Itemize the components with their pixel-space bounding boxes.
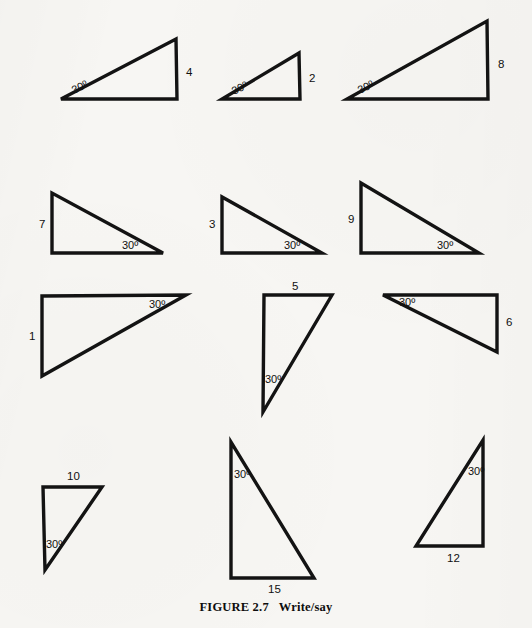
triangle-9-side-label: 9 — [348, 213, 354, 225]
triangle-10-angle-label: 30º — [46, 538, 62, 550]
triangle-group-1: 1 30º — [29, 295, 186, 376]
triangle-15-shape — [231, 442, 314, 578]
triangle-group-10: 10 30º — [43, 470, 102, 570]
triangle-3-side-label: 3 — [209, 218, 215, 230]
triangle-5-angle-label: 30º — [265, 373, 281, 385]
figure-caption: FIGURE 2.7Write/say — [0, 600, 532, 615]
triangle-10-side-label: 10 — [67, 470, 80, 482]
triangle-4-side-label: 4 — [186, 66, 193, 78]
triangle-group-9: 9 30º — [348, 183, 479, 253]
triangle-group-12: 12 30º — [416, 440, 484, 564]
triangle-5-side-label: 5 — [292, 280, 298, 292]
triangle-group-7: 7 30º — [39, 193, 163, 253]
triangle-1-angle-label: 30º — [149, 298, 165, 310]
triangle-10-shape — [43, 487, 102, 570]
triangle-8-angle-label: 30º — [355, 78, 375, 96]
triangle-8-side-label: 8 — [498, 58, 504, 70]
triangle-group-15: 15 30º — [231, 442, 314, 595]
triangle-7-side-label: 7 — [39, 218, 45, 230]
figure-caption-label: FIGURE 2.7 — [199, 600, 268, 614]
triangle-group-4: 4 30º — [61, 39, 193, 99]
triangle-9-angle-label: 30º — [437, 239, 453, 251]
triangle-group-8: 8 30º — [347, 21, 504, 99]
triangle-3-shape — [222, 197, 322, 253]
triangle-6-angle-label: 30º — [399, 296, 415, 308]
triangle-2-angle-label: 30º — [229, 79, 249, 97]
triangle-9-shape — [361, 183, 479, 253]
triangle-6-side-label: 6 — [506, 316, 512, 328]
triangle-2-side-label: 2 — [309, 72, 315, 84]
triangle-12-shape — [416, 440, 483, 546]
figure-page: 4 30º 2 30º 8 30º 7 30º 3 30º 9 30º — [0, 0, 532, 628]
triangle-group-2: 2 30º — [222, 53, 315, 99]
figure-caption-text: Write/say — [279, 600, 333, 614]
triangle-3-angle-label: 30º — [284, 239, 300, 251]
triangle-group-3: 3 30º — [209, 197, 322, 253]
triangle-12-side-label: 12 — [447, 552, 460, 564]
triangle-1-side-label: 1 — [29, 330, 35, 342]
triangle-7-shape — [52, 193, 163, 253]
triangle-7-angle-label: 30º — [122, 239, 138, 251]
triangle-15-angle-label: 30º — [234, 468, 250, 480]
triangle-group-6: 6 30º — [383, 295, 512, 352]
triangle-12-angle-label: 30º — [468, 465, 484, 477]
triangle-15-side-label: 15 — [268, 583, 281, 595]
figure-canvas: 4 30º 2 30º 8 30º 7 30º 3 30º 9 30º — [0, 0, 532, 628]
triangle-4-angle-label: 30º — [69, 78, 89, 96]
triangle-5-shape — [263, 295, 332, 412]
triangle-group-5: 5 30º — [263, 280, 332, 412]
